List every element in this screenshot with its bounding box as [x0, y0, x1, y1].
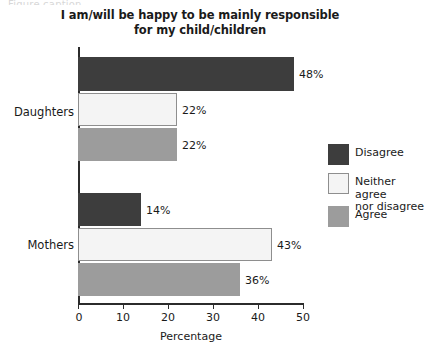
bar-value-mothers-neither: 43% [277, 239, 301, 252]
x-axis-title: Percentage [78, 330, 304, 343]
clipped-caption-artifact: Figure caption [8, 0, 158, 5]
x-axis-tick-label-30: 30 [206, 311, 220, 324]
bar-daughters-neither [78, 93, 177, 126]
bar-daughters-disagree [78, 57, 294, 91]
x-axis-tick-30 [213, 303, 214, 309]
x-axis-line [78, 303, 304, 305]
legend-swatch-disagree [328, 144, 349, 165]
legend-swatch-agree [328, 206, 349, 227]
x-axis-tick-20 [168, 303, 169, 309]
x-axis-tick-label-40: 40 [251, 311, 265, 324]
bar-mothers-neither [78, 228, 272, 261]
bar-mothers-agree [78, 263, 240, 296]
chart-title-line-1: I am/will be happy to be mainly responsi… [40, 8, 360, 23]
legend-item-disagree: Disagree [328, 144, 404, 165]
category-label-daughters: Daughters [0, 105, 74, 119]
x-axis-tick-label-0: 0 [76, 311, 83, 324]
bar-daughters-agree [78, 128, 177, 161]
bar-mothers-disagree [78, 193, 141, 226]
chart-title: I am/will be happy to be mainly responsi… [40, 8, 360, 38]
legend-item-agree: Agree [328, 206, 387, 227]
x-axis-tick-40 [258, 303, 259, 309]
bar-chart: Figure caption I am/will be happy to be … [0, 0, 430, 359]
bar-value-mothers-disagree: 14% [146, 204, 170, 217]
bar-value-mothers-agree: 36% [245, 274, 269, 287]
bar-value-daughters-disagree: 48% [299, 68, 323, 81]
x-axis-tick-50 [303, 303, 304, 309]
x-axis-tick-10 [123, 303, 124, 309]
category-label-mothers: Mothers [0, 238, 74, 252]
bar-value-daughters-agree: 22% [182, 139, 206, 152]
x-axis-tick-label-50: 50 [296, 311, 310, 324]
chart-title-line-2: for my child/children [40, 23, 360, 38]
legend-swatch-neither [328, 173, 349, 194]
legend-label-agree: Agree [355, 206, 387, 222]
x-axis-tick-label-10: 10 [116, 311, 130, 324]
bar-value-daughters-neither: 22% [182, 104, 206, 117]
x-axis-tick-label-20: 20 [161, 311, 175, 324]
x-axis-tick-0 [78, 303, 79, 309]
legend-label-disagree: Disagree [355, 144, 404, 160]
